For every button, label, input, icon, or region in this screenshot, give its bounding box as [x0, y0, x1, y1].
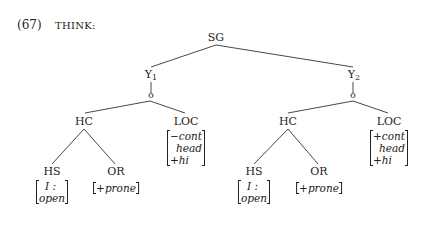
feature-matrix-hs-right: I : open [238, 180, 270, 204]
node-y1: Y1 [145, 68, 157, 82]
node-y2: Y2 [348, 68, 360, 82]
node-hs-left: HS [43, 165, 60, 178]
node-loc-left: LOC [174, 115, 199, 128]
feature-matrix-hs-left: I : open [36, 180, 68, 204]
feature-matrix-or-left: +prone [93, 182, 139, 194]
node-hs-right: HS [245, 165, 262, 178]
node-or-left: OR [107, 165, 124, 178]
feature-matrix-loc-right: +cont head +hi [370, 130, 408, 166]
feature-matrix-loc-left: −cont head +hi [167, 130, 205, 166]
node-junction-right: o [350, 90, 355, 100]
node-or-right: OR [310, 165, 327, 178]
node-hc-right: HC [279, 115, 297, 128]
node-hc-left: HC [75, 115, 93, 128]
node-junction-left: o [148, 90, 153, 100]
node-sg: SG [208, 31, 224, 44]
node-loc-right: LOC [377, 115, 402, 128]
feature-matrix-or-right: +prone [296, 182, 342, 194]
